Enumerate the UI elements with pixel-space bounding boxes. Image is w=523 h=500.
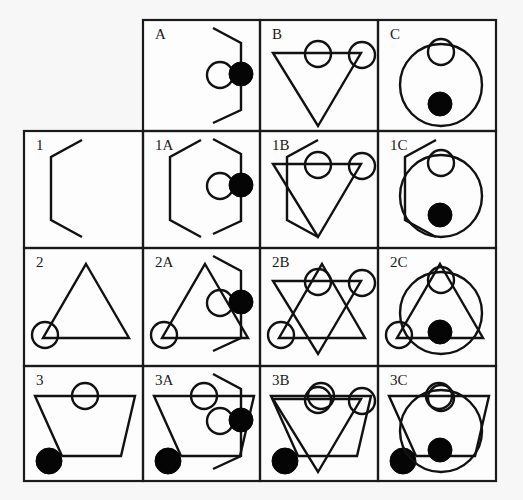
- cell-2b: 2B: [260, 248, 378, 366]
- filled-circle-icon: [428, 92, 452, 116]
- cell-3: 3: [24, 366, 143, 481]
- filled-circle-icon: [155, 448, 181, 474]
- cell-label: C: [390, 26, 400, 42]
- cell-b: B: [260, 20, 378, 131]
- cell-a: A: [143, 20, 260, 131]
- cell-label: 1: [36, 137, 44, 153]
- cell-c: C: [378, 20, 496, 131]
- filled-circle-icon: [229, 290, 253, 314]
- filled-circle-icon: [272, 448, 298, 474]
- cell-1: 1: [24, 131, 143, 248]
- cell-2: 2: [24, 248, 143, 366]
- cell-2c: 2C: [378, 248, 496, 366]
- puzzle-board: ABC11A1B1C22A2B2C33A3B3C: [0, 0, 523, 500]
- cell-1c: 1C: [378, 131, 496, 248]
- cell-label: 3C: [390, 372, 408, 388]
- filled-circle-icon: [428, 438, 452, 462]
- cell-label: 1A: [155, 137, 174, 153]
- cell-label: 1C: [390, 137, 408, 153]
- filled-circle-icon: [36, 448, 62, 474]
- cell-label: A: [155, 26, 166, 42]
- cell-2a: 2A: [143, 248, 260, 366]
- filled-circle-icon: [229, 173, 253, 197]
- filled-circle-icon: [229, 62, 253, 86]
- filled-circle-icon: [229, 408, 253, 432]
- cell-label: 1B: [272, 137, 290, 153]
- cell-label: 3: [36, 372, 44, 388]
- cell-3a: 3A: [143, 366, 260, 481]
- cell-label: 3A: [155, 372, 174, 388]
- filled-circle-icon: [428, 203, 452, 227]
- cell-1a: 1A: [143, 131, 260, 248]
- cell-label: B: [272, 26, 282, 42]
- cell-3b: 3B: [260, 366, 378, 481]
- cell-label: 2A: [155, 254, 174, 270]
- cell-label: 2B: [272, 254, 290, 270]
- cell-1b: 1B: [260, 131, 378, 248]
- cell-label: 3B: [272, 372, 290, 388]
- cell-label: 2: [36, 254, 44, 270]
- filled-circle-icon: [428, 320, 452, 344]
- cell-3c: 3C: [378, 366, 496, 481]
- cell-label: 2C: [390, 254, 408, 270]
